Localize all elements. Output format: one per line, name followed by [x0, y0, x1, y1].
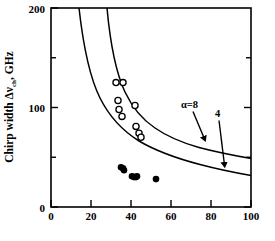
y-tick-label-200: 200	[29, 3, 46, 15]
chart-figure: 0 20 40 60 80 100 0 100 200 Chirp width …	[0, 0, 275, 241]
data-point-filled	[153, 176, 160, 183]
x-tick-label-0: 0	[48, 210, 54, 222]
y-axis-ticks-left	[51, 8, 58, 207]
plot-frame	[51, 8, 251, 207]
figure-caption-partial	[0, 231, 275, 241]
model-curves	[79, 8, 251, 176]
series-alpha-8-points	[113, 80, 144, 141]
x-tick-label-80: 80	[206, 210, 218, 222]
y-tick-label-100: 100	[29, 102, 46, 114]
annotation-alpha-8-label: α=8	[181, 99, 198, 110]
annotation-alpha-4-label: 4	[215, 108, 221, 119]
data-point-open	[120, 80, 126, 86]
curve-alpha-4	[79, 8, 251, 176]
data-point-open	[116, 106, 122, 112]
x-tick-label-20: 20	[86, 210, 98, 222]
x-axis-ticks	[51, 200, 251, 207]
y-axis-title-suffix: , GHz	[3, 51, 15, 80]
x-tick-label-40: 40	[126, 210, 138, 222]
data-point-filled	[134, 173, 141, 180]
y-tick-label-0: 0	[40, 202, 46, 214]
series-alpha-4-points	[118, 164, 160, 183]
annotation-alpha-4-arrow	[219, 121, 225, 166]
x-tick-label-100: 100	[243, 210, 260, 222]
x-tick-label-60: 60	[166, 210, 178, 222]
curve-alpha-8	[107, 8, 251, 159]
y-axis-title-prefix: Chirp width	[3, 99, 16, 162]
annotation-alpha-8: α=8	[181, 99, 205, 139]
data-point-open	[133, 123, 139, 129]
y-axis-title-symbol: Δν	[3, 87, 15, 99]
data-point-open	[113, 80, 119, 86]
data-point-open	[132, 102, 138, 108]
chirp-width-scatter-chart: 0 20 40 60 80 100 0 100 200 Chirp width …	[0, 0, 275, 241]
svg-text:Chirp width Δνch, GHz: Chirp width Δνch, GHz	[3, 51, 18, 162]
annotation-alpha-8-arrow	[193, 112, 205, 140]
y-axis-title: Chirp width Δνch, GHz	[3, 51, 18, 162]
x-tick-labels: 0 20 40 60 80 100	[48, 210, 260, 222]
data-point-open	[115, 97, 121, 103]
y-tick-labels: 0 100 200	[29, 3, 46, 214]
data-point-open	[119, 113, 125, 119]
data-point-open	[138, 134, 144, 140]
annotation-alpha-4: 4	[215, 108, 225, 165]
axes-box	[51, 8, 251, 207]
data-point-filled	[121, 167, 128, 174]
y-axis-ticks-right	[244, 58, 251, 207]
